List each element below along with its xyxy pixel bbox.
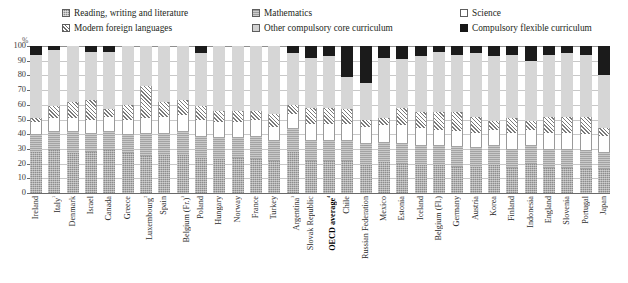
bar-segment-compulsory-flexible bbox=[85, 46, 97, 52]
bar-israel bbox=[85, 46, 97, 193]
bar-belgium-fr bbox=[177, 46, 189, 193]
bar-segment-other-compulsory-core bbox=[378, 58, 390, 118]
bar-segment-other-compulsory-core bbox=[85, 52, 97, 101]
legend-item-science: Science bbox=[460, 9, 620, 18]
bar-segment-mathematics bbox=[195, 136, 207, 158]
bar-segment-compulsory-flexible bbox=[378, 46, 390, 58]
bar-segment-science bbox=[140, 118, 152, 133]
x-axis-label-belgium-fr: Belgium (Fr.)³ bbox=[177, 196, 189, 242]
x-axis-label-ireland: Ireland bbox=[30, 196, 42, 219]
bar-segment-mathematics bbox=[103, 131, 115, 150]
x-axis-labels-group: IrelandItaly¹DenmarkIsraelCanadaGreeceLu… bbox=[30, 196, 610, 282]
y-axis-tick-label: 20 bbox=[0, 159, 26, 168]
bar-segment-other-compulsory-core bbox=[580, 55, 592, 117]
bar-segment-modern-foreign-languages bbox=[268, 114, 280, 127]
bar-segment-modern-foreign-languages bbox=[103, 109, 115, 116]
x-axis-label-slovenia: Slovenia bbox=[561, 196, 573, 225]
bar-hungary bbox=[213, 46, 225, 193]
x-axis-label-mexico: Mexico bbox=[378, 196, 390, 221]
legend-item-mathematics: Mathematics bbox=[252, 9, 460, 18]
bar-segment-other-compulsory-core bbox=[396, 59, 408, 108]
bar-segment-other-compulsory-core bbox=[122, 46, 134, 105]
x-axis-label-israel: Israel bbox=[85, 196, 97, 214]
bar-segment-mathematics bbox=[268, 140, 280, 161]
x-axis-label-italy: Italy¹ bbox=[48, 196, 60, 213]
bar-segment-other-compulsory-core bbox=[323, 56, 335, 107]
bar-segment-mathematics bbox=[341, 140, 353, 161]
bar-segment-reading bbox=[506, 168, 518, 193]
bar-segment-mathematics bbox=[470, 147, 482, 166]
x-axis-label-argentina: Argentina³ bbox=[287, 196, 299, 230]
bar-chile bbox=[341, 46, 353, 193]
legend-item-label: Science bbox=[472, 9, 501, 18]
bar-mexico bbox=[378, 46, 390, 193]
y-axis-tick-label: 30 bbox=[0, 144, 26, 153]
bar-segment-other-compulsory-core bbox=[232, 46, 244, 111]
bar-segment-other-compulsory-core bbox=[67, 46, 79, 102]
bar-segment-mathematics bbox=[580, 150, 592, 169]
bar-segment-modern-foreign-languages bbox=[30, 118, 42, 122]
footnote-marker: ¹ bbox=[51, 196, 57, 198]
x-axis-label-japan: Japan bbox=[598, 196, 610, 215]
bar-russian-federation bbox=[360, 46, 372, 193]
bar-segment-compulsory-flexible bbox=[48, 46, 60, 50]
x-axis-label-finland: Finland bbox=[506, 196, 518, 221]
bar-segment-modern-foreign-languages bbox=[158, 102, 170, 117]
bar-segment-modern-foreign-languages bbox=[177, 100, 189, 115]
bar-oecd-average bbox=[323, 46, 335, 193]
footnote-marker: ³ bbox=[180, 196, 186, 198]
bar-segment-reading bbox=[360, 165, 372, 193]
bar-segment-reading bbox=[158, 155, 170, 193]
bar-segment-mathematics bbox=[488, 145, 500, 166]
bar-segment-reading bbox=[30, 152, 42, 193]
bar-segment-other-compulsory-core bbox=[470, 53, 482, 116]
bar-segment-science bbox=[85, 120, 97, 133]
bar-segment-other-compulsory-core bbox=[250, 46, 262, 111]
bar-segment-mathematics bbox=[506, 149, 518, 168]
chart-legend: Reading, writing and literatureMathemati… bbox=[62, 6, 620, 36]
bar-segment-mathematics bbox=[250, 136, 262, 160]
x-axis-label-estonia: Estonia bbox=[396, 196, 408, 221]
bar-canada bbox=[103, 46, 115, 193]
bar-segment-science bbox=[268, 127, 280, 140]
bar-segment-science bbox=[543, 133, 555, 149]
legend-item-modern-foreign-languages: Modern foreign languages bbox=[62, 24, 252, 33]
bar-segment-reading bbox=[305, 161, 317, 193]
legend-item-label: Reading, writing and literature bbox=[74, 9, 188, 18]
bar-segment-compulsory-flexible bbox=[323, 46, 335, 56]
bar-segment-modern-foreign-languages bbox=[360, 120, 372, 127]
bar-slovak-republic bbox=[305, 46, 317, 193]
legend-item-other-core: Other compulsory core curriculum bbox=[252, 24, 460, 33]
bar-estonia bbox=[396, 46, 408, 193]
x-axis-label-oecd-average: OECD average⁴ bbox=[323, 196, 335, 251]
bar-segment-science bbox=[470, 133, 482, 148]
bar-segment-mathematics bbox=[67, 131, 79, 153]
bar-segment-mathematics bbox=[543, 149, 555, 168]
bar-segment-compulsory-flexible bbox=[341, 46, 353, 77]
bar-segment-other-compulsory-core bbox=[525, 61, 537, 121]
bar-segment-other-compulsory-core bbox=[543, 55, 555, 117]
bar-segment-modern-foreign-languages bbox=[195, 106, 207, 119]
bar-segment-modern-foreign-languages bbox=[67, 102, 79, 118]
bar-segment-mathematics bbox=[232, 137, 244, 158]
bar-segment-mathematics bbox=[378, 142, 390, 163]
bar-segment-science bbox=[30, 122, 42, 134]
bar-segment-compulsory-flexible bbox=[525, 46, 537, 61]
legend-item-flexible: Compulsory flexible curriculum bbox=[460, 24, 620, 33]
bar-poland bbox=[195, 46, 207, 193]
bar-segment-modern-foreign-languages bbox=[323, 108, 335, 124]
bar-segment-modern-foreign-languages bbox=[250, 111, 262, 120]
y-axis-tick-label: 50 bbox=[0, 115, 26, 124]
x-axis-label-iceland: Iceland bbox=[415, 196, 427, 220]
x-axis-label-france: France bbox=[250, 196, 262, 218]
bar-segment-reading bbox=[67, 153, 79, 193]
bar-segment-mathematics bbox=[213, 137, 225, 159]
x-axis-label-russian-federation: Russian Federation bbox=[360, 196, 372, 259]
bar-segment-reading bbox=[543, 168, 555, 193]
legend-item-reading: Reading, writing and literature bbox=[62, 9, 252, 18]
bar-segment-science bbox=[598, 136, 610, 152]
bar-segment-other-compulsory-core bbox=[598, 75, 610, 128]
bar-indonesia bbox=[525, 46, 537, 193]
bar-segment-science bbox=[525, 130, 537, 145]
x-axis-label-denmark: Denmark bbox=[67, 196, 79, 226]
